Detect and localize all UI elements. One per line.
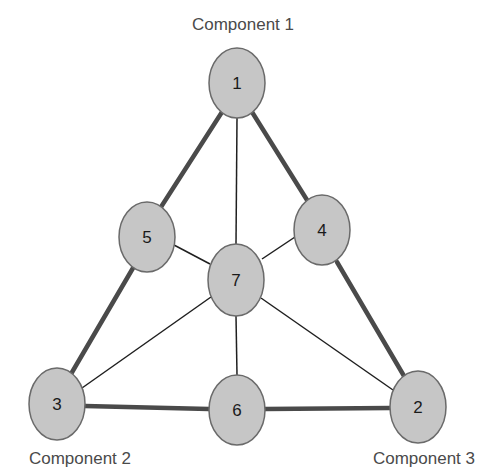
node-5-label: 5 bbox=[142, 228, 151, 247]
vertex-label-component-2: Component 2 bbox=[29, 449, 131, 468]
node-2: 2 bbox=[390, 371, 446, 443]
mixture-design-diagram: 1 2 3 4 5 6 7 Component 1 Component 2 Co… bbox=[0, 0, 500, 474]
edge-4-2 bbox=[337, 262, 404, 376]
edge-2-7 bbox=[261, 298, 393, 390]
node-6-label: 6 bbox=[232, 401, 241, 420]
edge-1-7 bbox=[236, 118, 237, 244]
node-3: 3 bbox=[29, 368, 85, 440]
vertex-label-component-3: Component 3 bbox=[373, 449, 475, 468]
node-2-label: 2 bbox=[413, 398, 422, 417]
node-5: 5 bbox=[119, 202, 175, 272]
node-1: 1 bbox=[209, 48, 265, 118]
node-4-label: 4 bbox=[317, 221, 326, 240]
edge-3-6 bbox=[85, 406, 209, 409]
edge-6-2 bbox=[265, 408, 390, 409]
node-4: 4 bbox=[294, 195, 350, 265]
node-3-label: 3 bbox=[52, 395, 61, 414]
node-7: 7 bbox=[208, 244, 264, 316]
node-7-label: 7 bbox=[231, 271, 240, 290]
edge-5-7 bbox=[174, 245, 210, 264]
edge-4-7 bbox=[262, 237, 295, 259]
vertex-label-component-1: Component 1 bbox=[192, 15, 294, 34]
edge-6-7 bbox=[236, 316, 237, 375]
edge-1-5 bbox=[161, 112, 222, 207]
node-1-label: 1 bbox=[232, 74, 241, 93]
node-6: 6 bbox=[209, 375, 265, 445]
edge-3-7 bbox=[82, 297, 211, 388]
edge-1-4 bbox=[252, 112, 307, 200]
